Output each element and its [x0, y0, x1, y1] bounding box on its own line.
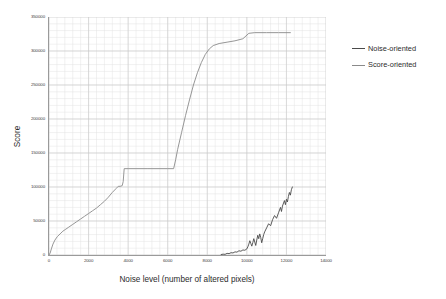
y-tick-label: 350000 [31, 15, 45, 19]
y-tick-label: 0 [43, 253, 45, 257]
x-tick-label: 8000 [203, 259, 212, 263]
y-tick-label: 250000 [31, 83, 45, 87]
legend-item[interactable]: Noise-oriented [352, 45, 444, 52]
y-tick-label: 200000 [31, 117, 45, 121]
y-tick-label: 50000 [33, 219, 45, 223]
plot-area: 0500001000001500002000002500003000003500… [48, 17, 326, 256]
y-tick-label: 300000 [31, 49, 45, 53]
x-tick-label: 10000 [241, 259, 253, 263]
x-tick-label: 4000 [123, 259, 132, 263]
chart-container: 0500001000001500002000002500003000003500… [0, 0, 446, 299]
legend-item[interactable]: Score-oriented [352, 61, 444, 68]
x-tick-label: 0 [48, 259, 50, 263]
x-axis-title: Noise level (number of altered pixels) [48, 276, 326, 284]
y-axis-title: Score [9, 17, 26, 256]
legend-label: Noise-oriented [368, 45, 416, 52]
chart-legend: Noise-orientedScore-oriented [352, 45, 444, 78]
x-tick-label: 14000 [320, 259, 332, 263]
x-tick-label: 2000 [84, 259, 93, 263]
series-lines [49, 17, 326, 255]
y-tick-label: 150000 [31, 151, 45, 155]
legend-label: Score-oriented [368, 61, 416, 68]
x-tick-label: 6000 [163, 259, 172, 263]
y-tick-label: 100000 [31, 185, 45, 189]
x-tick-label: 12000 [281, 259, 293, 263]
legend-line-swatch [352, 48, 365, 49]
legend-line-swatch [352, 65, 365, 66]
